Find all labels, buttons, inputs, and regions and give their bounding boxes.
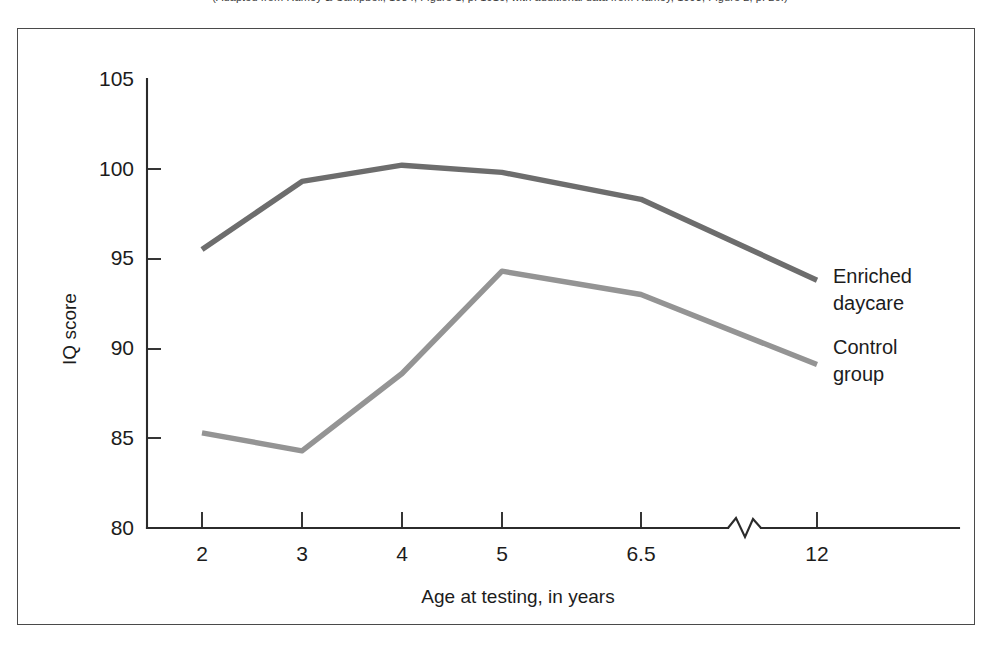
series-label-enriched-daycare: Enriched daycare xyxy=(833,265,912,314)
x-axis-tick-labels: 2 3 4 5 6.5 12 xyxy=(196,542,829,565)
series-label-control-group: Control group xyxy=(833,336,897,385)
figure-frame: 105 100 95 90 85 80 IQ score xyxy=(17,28,975,625)
series-label-control-line2: group xyxy=(833,363,884,385)
x-tick-label-12: 12 xyxy=(805,542,828,565)
series-line-enriched-daycare xyxy=(202,165,817,280)
y-tick-label-100: 100 xyxy=(99,157,134,180)
y-tick-label-80: 80 xyxy=(111,516,134,539)
iq-score-line-chart: 105 100 95 90 85 80 IQ score xyxy=(18,29,976,626)
series-label-enriched-line1: Enriched xyxy=(833,265,912,287)
series-line-control-group xyxy=(202,271,817,451)
y-tick-label-90: 90 xyxy=(111,336,134,359)
x-tick-label-5: 5 xyxy=(496,542,508,565)
x-tick-label-6point5: 6.5 xyxy=(626,542,655,565)
x-axis-title: Age at testing, in years xyxy=(421,586,614,607)
y-axis-ticks xyxy=(147,169,161,438)
figure-caption: (Adapted from Ramey & Campbell, 1984, Fi… xyxy=(0,0,1000,5)
x-tick-label-3: 3 xyxy=(296,542,308,565)
x-tick-label-4: 4 xyxy=(396,542,408,565)
y-axis-title: IQ score xyxy=(59,293,80,365)
x-axis-break-zigzag xyxy=(728,518,761,537)
series-label-control-line1: Control xyxy=(833,336,897,358)
y-axis-tick-labels: 105 100 95 90 85 80 xyxy=(99,67,134,539)
x-axis-ticks xyxy=(202,512,817,528)
y-tick-label-85: 85 xyxy=(111,426,134,449)
series-label-enriched-line2: daycare xyxy=(833,292,904,314)
y-tick-label-95: 95 xyxy=(111,246,134,269)
y-tick-label-105: 105 xyxy=(99,67,134,90)
x-tick-label-2: 2 xyxy=(196,542,208,565)
